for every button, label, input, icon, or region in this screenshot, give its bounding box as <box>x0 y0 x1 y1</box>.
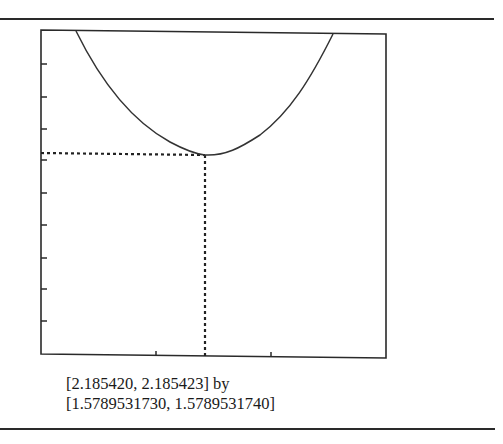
plot-frame <box>41 30 386 358</box>
y-axis-ticks <box>41 64 47 321</box>
minimum-guides <box>41 153 205 356</box>
bottom-rule <box>0 428 495 430</box>
x-range-label: [2.185420, 2.185423] by <box>66 374 275 394</box>
window-range-caption: [2.185420, 2.185423] by [1.5789531730, 1… <box>66 374 275 414</box>
function-curve <box>76 31 333 155</box>
y-range-label: [1.5789531730, 1.5789531740] <box>66 394 275 414</box>
